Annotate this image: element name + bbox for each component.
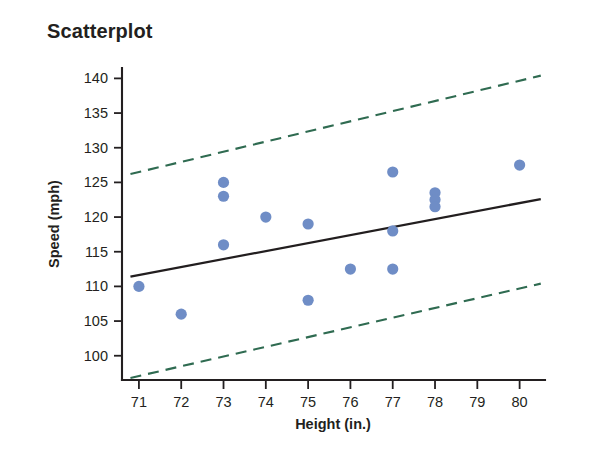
data-point (218, 191, 229, 202)
y-tick-label: 125 (84, 174, 108, 190)
y-axis-title: Speed (mph) (46, 180, 62, 268)
plot-area: 100105110115120125130135140 717273747576… (0, 0, 593, 452)
data-point (133, 281, 144, 292)
x-tick-label: 76 (342, 394, 358, 410)
data-point (387, 166, 398, 177)
prediction-band-group (130, 76, 540, 378)
x-tick-label: 72 (173, 394, 189, 410)
upper-prediction-band (130, 76, 540, 174)
data-point (303, 295, 314, 306)
y-tick-label: 130 (84, 140, 108, 156)
x-tick-label: 73 (215, 394, 231, 410)
regression-line-group (130, 199, 540, 277)
data-point (387, 263, 398, 274)
data-point (303, 218, 314, 229)
data-point (345, 263, 356, 274)
data-point (176, 309, 187, 320)
x-tick-label: 77 (385, 394, 401, 410)
x-tick-label: 78 (427, 394, 443, 410)
x-axis-title: Height (in.) (295, 416, 371, 432)
data-point (429, 201, 440, 212)
x-tick-label: 75 (300, 394, 316, 410)
x-axis-ticks: 71727374757677787980 (131, 380, 528, 410)
data-point (260, 211, 271, 222)
x-tick-label: 79 (469, 394, 485, 410)
lower-prediction-band (130, 284, 540, 378)
y-tick-label: 135 (84, 105, 108, 121)
y-tick-label: 140 (84, 70, 108, 86)
data-point (218, 177, 229, 188)
data-point (387, 225, 398, 236)
x-tick-label: 74 (258, 394, 274, 410)
data-point (514, 159, 525, 170)
regression-line (130, 199, 540, 277)
data-point (218, 239, 229, 250)
x-tick-label: 80 (512, 394, 528, 410)
y-tick-label: 115 (85, 244, 108, 260)
y-tick-label: 120 (84, 209, 108, 225)
y-tick-label: 100 (84, 348, 108, 364)
x-tick-label: 71 (131, 394, 147, 410)
scatterplot-figure: Scatterplot 100105110115120125130135140 … (0, 0, 593, 452)
axes-group (122, 68, 545, 380)
y-tick-label: 105 (84, 313, 108, 329)
y-tick-label: 110 (85, 278, 108, 294)
y-axis-ticks: 100105110115120125130135140 (84, 70, 122, 363)
